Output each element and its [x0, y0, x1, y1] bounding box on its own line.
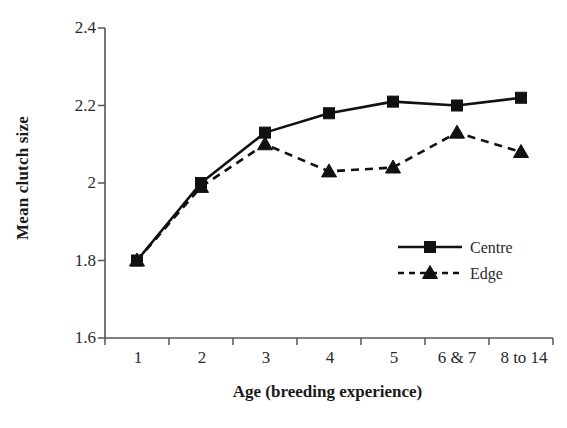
- axis-lines: [105, 28, 553, 338]
- data-point-marker-square: [324, 108, 335, 119]
- data-point-marker-triangle: [450, 125, 465, 138]
- data-point-marker-triangle: [514, 145, 529, 158]
- y-axis-ticks: [98, 28, 105, 338]
- data-point-marker-square: [388, 96, 399, 107]
- series-centre: [132, 92, 527, 266]
- data-series-layer: [130, 92, 529, 266]
- chart-figure: Mean clutch size Age (breeding experienc…: [0, 0, 567, 428]
- data-point-marker-triangle: [386, 160, 401, 173]
- data-point-marker-triangle: [258, 137, 273, 150]
- plot-area: [0, 0, 567, 428]
- series-line: [137, 133, 521, 261]
- series-line: [137, 98, 521, 261]
- legend-glyphs: [398, 242, 462, 279]
- data-point-marker-square: [452, 100, 463, 111]
- data-point-marker-square: [425, 242, 436, 253]
- data-point-marker-square: [516, 92, 527, 103]
- x-axis-ticks: [105, 338, 553, 345]
